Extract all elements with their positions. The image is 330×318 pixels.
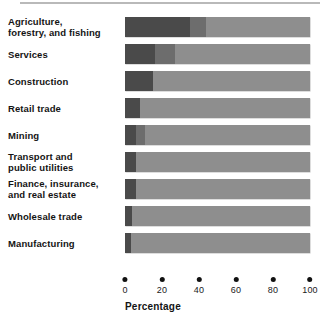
stacked-bar	[125, 152, 310, 172]
bar-row: Mining	[0, 122, 330, 149]
tick-dot-marker	[159, 277, 164, 282]
category-label-line: Construction	[8, 76, 120, 87]
x-axis-tick: 40	[194, 277, 204, 295]
tick-dot-marker	[233, 277, 238, 282]
x-axis-tick-label: 0	[122, 285, 127, 295]
x-axis-tick: 20	[157, 277, 167, 295]
bar-segment	[132, 206, 310, 226]
category-label-line: Mining	[8, 130, 120, 141]
category-label: Transport andpublic utilities	[8, 151, 120, 173]
tick-dot-marker	[123, 277, 128, 282]
bar-segment	[125, 17, 190, 37]
bar-row: Manufacturing	[0, 230, 330, 257]
stacked-bar	[125, 125, 310, 145]
bar-segment	[125, 71, 153, 91]
bar-segment	[125, 179, 136, 199]
category-label-line: Finance, insurance,	[8, 178, 120, 189]
x-axis-tick-label: 100	[302, 285, 318, 295]
category-label-line: Agriculture,	[8, 16, 120, 27]
bar-segment	[190, 17, 207, 37]
tick-dot-marker	[308, 277, 313, 282]
bar-segment	[125, 98, 140, 118]
bar-segment	[140, 98, 310, 118]
bar-segment	[206, 17, 310, 37]
bar-row: Construction	[0, 68, 330, 95]
x-axis-tick: 80	[268, 277, 278, 295]
x-axis-tick-label: 40	[194, 285, 204, 295]
x-axis-tick-label: 80	[268, 285, 278, 295]
category-label: Construction	[8, 76, 120, 87]
stacked-bar	[125, 44, 310, 64]
bar-segment	[136, 125, 145, 145]
category-label-line: forestry, and fishing	[8, 27, 120, 38]
bar-segment	[155, 44, 175, 64]
category-label: Retail trade	[8, 103, 120, 114]
bar-row: Finance, insurance,and real estate	[0, 176, 330, 203]
bar-segment	[175, 44, 310, 64]
x-axis-tick: 100	[302, 277, 318, 295]
x-axis-title: Percentage	[125, 301, 181, 312]
stacked-bar	[125, 71, 310, 91]
category-label-line: Retail trade	[8, 103, 120, 114]
category-label: Mining	[8, 130, 120, 141]
stacked-bar-chart: Agriculture,forestry, and fishingService…	[0, 0, 330, 318]
tick-dot-marker	[196, 277, 201, 282]
bar-row: Services	[0, 41, 330, 68]
x-axis-tick: 60	[231, 277, 241, 295]
x-axis-tick-label: 20	[157, 285, 167, 295]
category-label-line: Manufacturing	[8, 238, 120, 249]
category-label-line: public utilities	[8, 162, 120, 173]
category-label-line: Wholesale trade	[8, 211, 120, 222]
stacked-bar	[125, 179, 310, 199]
stacked-bar	[125, 17, 310, 37]
category-label: Wholesale trade	[8, 211, 120, 222]
bar-row: Agriculture,forestry, and fishing	[0, 14, 330, 41]
scan-artifact-line	[20, 2, 320, 4]
x-axis-tick: 0	[122, 277, 127, 295]
bar-row: Retail trade	[0, 95, 330, 122]
category-label-line: Transport and	[8, 151, 120, 162]
category-label: Manufacturing	[8, 238, 120, 249]
category-label: Finance, insurance,and real estate	[8, 178, 120, 200]
stacked-bar	[125, 233, 310, 253]
bar-segment	[125, 44, 155, 64]
bar-row: Transport andpublic utilities	[0, 149, 330, 176]
bar-segment	[153, 71, 310, 91]
category-label-line: and real estate	[8, 189, 120, 200]
chart-plot-area: Agriculture,forestry, and fishingService…	[0, 14, 330, 257]
bar-segment	[125, 152, 136, 172]
x-axis: Percentage 020406080100	[0, 277, 330, 318]
stacked-bar	[125, 98, 310, 118]
bar-row: Wholesale trade	[0, 203, 330, 230]
bar-segment	[131, 233, 310, 253]
x-axis-tick-label: 60	[231, 285, 241, 295]
bar-segment	[136, 179, 310, 199]
bar-segment	[125, 206, 132, 226]
category-label: Services	[8, 49, 120, 60]
tick-dot-marker	[270, 277, 275, 282]
bar-segment	[145, 125, 310, 145]
bar-segment	[136, 152, 310, 172]
category-label-line: Services	[8, 49, 120, 60]
category-label: Agriculture,forestry, and fishing	[8, 16, 120, 38]
bar-segment	[125, 125, 136, 145]
stacked-bar	[125, 206, 310, 226]
